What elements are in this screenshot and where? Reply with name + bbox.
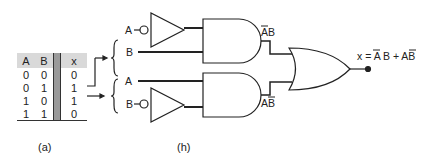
brace-top <box>111 40 118 76</box>
arrow-icon-top <box>95 56 107 60</box>
top-and-output-label: AB <box>261 26 275 38</box>
inverter-bottom <box>151 88 184 122</box>
input-label-a-top: A <box>125 24 132 36</box>
output-expression: x = A B + AB <box>357 50 415 62</box>
row1-arrow-connector <box>87 58 95 86</box>
brace-bottom <box>111 79 118 113</box>
bubble-icon-bottom <box>140 100 148 108</box>
or-gate <box>289 48 350 90</box>
inverter-top <box>151 13 184 47</box>
input-label-a-bottom: A <box>125 75 132 87</box>
input-label-b-top: B <box>126 46 133 58</box>
output-node-icon <box>366 67 371 72</box>
input-label-b-bottom: B <box>126 98 133 110</box>
logic-circuit: A B A B AB AB x = A B + AB <box>0 0 431 162</box>
and-gate-bottom <box>203 73 261 117</box>
bottom-and-output-label: AB <box>261 97 275 109</box>
bubble-icon-top <box>140 26 148 34</box>
arrow-icon-bottom <box>100 94 104 98</box>
and-gate-top <box>203 19 261 63</box>
